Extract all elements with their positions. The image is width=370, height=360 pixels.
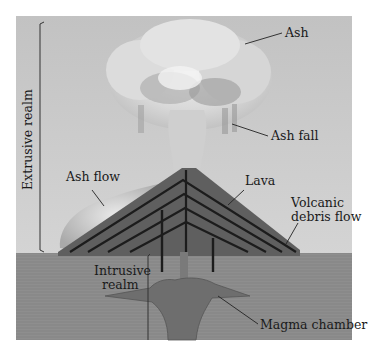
label-ash-flow: Ash flow bbox=[66, 170, 120, 184]
label-volcanic-debris-flow-2: debris flow bbox=[291, 210, 361, 224]
label-magma-chamber: Magma chamber bbox=[260, 318, 367, 332]
label-volcanic-debris-flow-1: Volcanic bbox=[291, 196, 344, 210]
label-intrusive-realm-1: Intrusive bbox=[94, 264, 151, 278]
label-ash: Ash bbox=[285, 26, 309, 40]
volcano-diagram: Ash Ash fall Ash flow Lava Volcanic debr… bbox=[0, 0, 370, 360]
label-intrusive-realm-2: realm bbox=[102, 278, 139, 292]
eruption-column bbox=[168, 110, 206, 172]
label-lava: Lava bbox=[245, 174, 275, 188]
label-ash-fall: Ash fall bbox=[271, 129, 319, 143]
label-extrusive-realm: Extrusive realm bbox=[20, 89, 35, 190]
